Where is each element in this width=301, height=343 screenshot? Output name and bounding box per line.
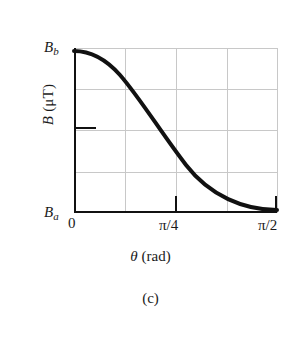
y-axis-max-sub: b <box>53 45 59 57</box>
plot-area <box>74 48 277 213</box>
x-axis-unit: (rad) <box>141 248 170 264</box>
x-tick-label-pi-over-4: π/4 <box>159 218 178 233</box>
plot-canvas <box>74 48 277 213</box>
x-tick-label-pi-over-2: π/2 <box>258 218 277 233</box>
y-axis-min-sub: a <box>53 210 59 222</box>
y-axis-title: B (μT) <box>40 45 57 165</box>
y-axis-max-var: B <box>44 39 53 55</box>
y-axis-min-var: B <box>44 204 53 220</box>
y-axis-max-label: Bb <box>44 40 59 57</box>
x-axis-title: θ (rad) <box>0 248 301 265</box>
gridlines <box>74 48 277 213</box>
figure-caption: (c) <box>0 290 301 307</box>
y-axis-min-label: Ba <box>44 205 59 222</box>
x-axis-symbol: θ <box>130 248 137 264</box>
figure-panel-c: B (μT) Bb Ba 0 π/4 π/2 <box>0 0 301 343</box>
x-tick-label-0: 0 <box>68 216 76 231</box>
